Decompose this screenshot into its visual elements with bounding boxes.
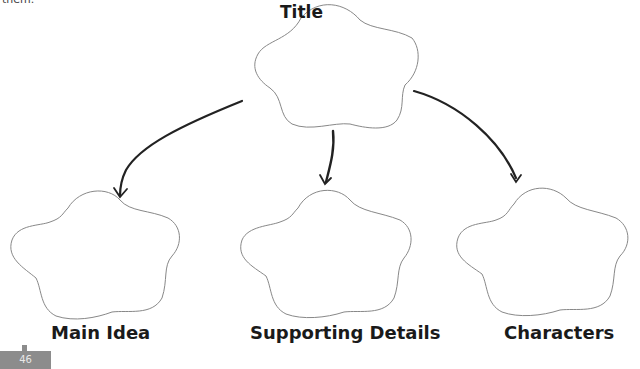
page-number-tab: 46 (0, 351, 51, 369)
title-cloud-shape (255, 5, 418, 128)
arrow-to-characters (414, 91, 521, 182)
arrow-to-supporting-details (320, 131, 333, 184)
graphic-organizer: them. Title Main Idea (0, 0, 640, 369)
main-idea-cloud-shape (11, 191, 180, 319)
page-number: 46 (19, 354, 32, 365)
characters-cloud-shape (457, 188, 628, 315)
arrow-to-main-idea (114, 101, 242, 197)
title-node-label: Title (280, 2, 323, 22)
diagram-shapes (0, 0, 640, 369)
characters-label: Characters (504, 322, 614, 343)
supporting-details-cloud-shape (241, 190, 411, 317)
main-idea-label: Main Idea (51, 322, 150, 343)
supporting-details-label: Supporting Details (250, 322, 441, 343)
